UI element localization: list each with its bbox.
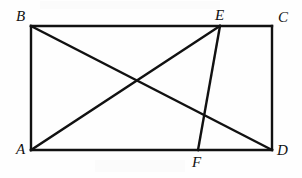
vertex-label-E: E	[215, 8, 224, 23]
diagonal-BD	[31, 26, 272, 150]
geometry-figure: B E C A F D	[0, 0, 302, 178]
segment-AE	[31, 26, 220, 150]
vertex-label-C: C	[278, 10, 288, 25]
vertex-label-F: F	[192, 155, 201, 170]
vertex-label-D: D	[277, 143, 288, 158]
vertex-label-B: B	[16, 9, 25, 24]
vertex-label-A: A	[16, 142, 25, 157]
figure-canvas	[0, 0, 302, 178]
segment-EF	[198, 26, 220, 150]
segments-group	[31, 26, 272, 150]
